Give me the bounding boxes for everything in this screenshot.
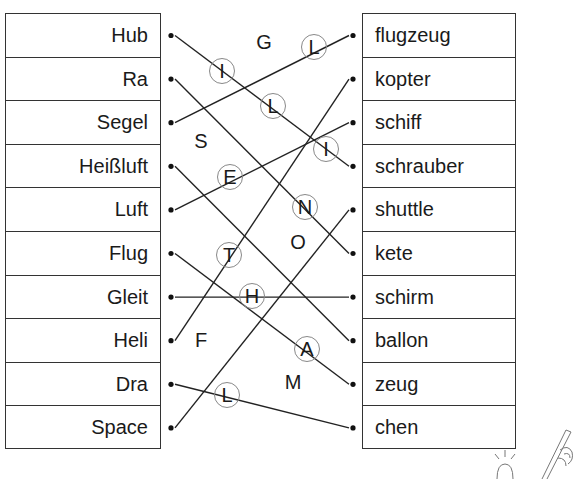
lightbulb-icon [488, 448, 522, 479]
circled-letter: L [260, 93, 286, 119]
free-letter: M [281, 370, 305, 394]
right-connect-dot[interactable] [350, 425, 355, 430]
right-connect-dot[interactable] [350, 382, 355, 387]
right-connect-dot[interactable] [350, 120, 355, 125]
circled-letter: E [217, 164, 243, 190]
left-connect-dot[interactable] [168, 33, 173, 38]
right-connect-dot[interactable] [350, 164, 355, 169]
connection-line [175, 210, 349, 428]
left-connect-dot[interactable] [168, 425, 173, 430]
right-connect-dot[interactable] [350, 207, 355, 212]
left-connect-dot[interactable] [168, 77, 173, 82]
pencil-hand-icon [538, 428, 578, 479]
left-connect-dot[interactable] [168, 295, 173, 300]
circled-letter: H [239, 283, 265, 309]
right-connect-dot[interactable] [350, 338, 355, 343]
left-connect-dot[interactable] [168, 382, 173, 387]
circled-letter: L [214, 382, 240, 408]
connection-line [175, 384, 349, 428]
free-letter: G [252, 30, 276, 54]
free-letter: O [286, 230, 310, 254]
circled-letter: N [292, 194, 318, 220]
right-connect-dot[interactable] [350, 33, 355, 38]
left-connect-dot[interactable] [168, 338, 173, 343]
circled-letter: A [294, 336, 320, 362]
free-letter: F [189, 328, 213, 352]
circled-letter: I [209, 58, 235, 84]
right-connect-dot[interactable] [350, 295, 355, 300]
right-connect-dot[interactable] [350, 251, 355, 256]
free-letter: S [189, 129, 213, 153]
left-connect-dot[interactable] [168, 207, 173, 212]
left-connect-dot[interactable] [168, 251, 173, 256]
circled-letter: I [313, 136, 339, 162]
connection-line [175, 166, 349, 340]
circled-letter: T [216, 242, 242, 268]
left-connect-dot[interactable] [168, 120, 173, 125]
left-connect-dot[interactable] [168, 164, 173, 169]
circled-letter: L [301, 34, 327, 60]
right-connect-dot[interactable] [350, 77, 355, 82]
